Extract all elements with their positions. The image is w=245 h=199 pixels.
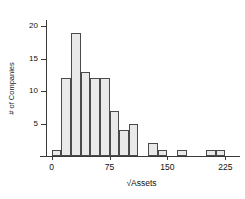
histogram-bar	[148, 143, 158, 156]
x-axis-tick-label: 225	[210, 163, 240, 172]
histogram-bar	[129, 124, 139, 156]
histogram-bar	[100, 78, 110, 156]
histogram-chart: # of Companies 5101520 075150225 √Assets	[0, 0, 245, 199]
x-axis-tick-mark	[225, 156, 226, 160]
x-axis-tick-mark	[52, 156, 53, 160]
x-axis-label-text: √Assets	[88, 178, 156, 188]
x-axis-label: √Assets	[0, 178, 245, 188]
histogram-bar	[110, 111, 120, 156]
y-axis-tick-label: 5	[22, 120, 38, 128]
histogram-bar	[90, 78, 100, 156]
y-axis-tick-label: 20	[22, 22, 38, 30]
histogram-bar	[61, 78, 71, 156]
x-axis-tick-label: 150	[152, 163, 182, 172]
histogram-bar	[71, 33, 81, 156]
x-axis-tick-labels: 075150225	[0, 163, 245, 175]
histogram-bar	[81, 72, 91, 156]
y-axis-tick-label: 10	[22, 87, 38, 95]
plot-area	[47, 20, 240, 156]
y-axis-label-text: # of Companies	[7, 62, 16, 115]
x-axis-tick-label: 0	[37, 163, 67, 172]
x-axis-tick-mark	[167, 156, 168, 160]
y-axis-label: # of Companies	[4, 38, 18, 138]
y-axis-tick-label: 15	[22, 55, 38, 63]
histogram-bar	[119, 130, 129, 156]
x-axis-tick-marks	[0, 156, 245, 162]
x-axis-tick-label: 75	[95, 163, 125, 172]
x-axis-tick-mark	[110, 156, 111, 160]
